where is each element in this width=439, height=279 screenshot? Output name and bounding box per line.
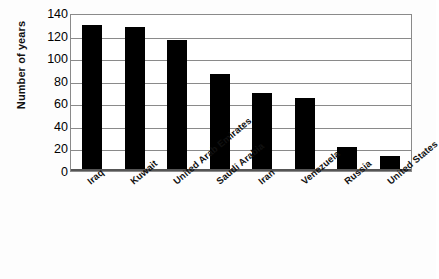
y-axis-tick-label: 80	[30, 75, 68, 89]
y-axis-tick-label: 20	[30, 142, 68, 156]
bar-slot	[369, 15, 412, 171]
x-label-slot: Iran	[241, 174, 284, 274]
x-label-slot: Venezuela	[284, 174, 327, 274]
x-label-slot: United States	[369, 174, 412, 274]
x-label-slot: Saudi Arabia	[198, 174, 241, 274]
plot-area	[70, 14, 412, 172]
y-axis-tick-label: 120	[30, 30, 68, 44]
bars-group	[71, 15, 411, 171]
y-axis-title: Number of years	[12, 0, 30, 130]
x-label-slot: Russia	[327, 174, 370, 274]
bar-slot	[284, 15, 327, 171]
bar[interactable]	[295, 98, 315, 171]
y-axis-tick-label: 100	[30, 52, 68, 66]
bar[interactable]	[82, 25, 102, 171]
bar[interactable]	[125, 27, 145, 171]
y-axis-tick-labels: 020406080100120140	[30, 14, 68, 172]
bar[interactable]	[252, 93, 272, 171]
bar-slot	[114, 15, 157, 171]
x-label-slot: United Arab Emirates	[156, 174, 199, 274]
x-label-slot: Kuwait	[113, 174, 156, 274]
bar[interactable]	[167, 40, 187, 171]
y-axis-tick-label: 140	[30, 7, 68, 21]
y-axis-tick-label: 0	[30, 165, 68, 179]
bar-slot	[156, 15, 199, 171]
y-axis-tick-label: 60	[30, 97, 68, 111]
x-label-slot: Iraq	[70, 174, 113, 274]
bar-slot	[326, 15, 369, 171]
x-axis-tick-labels: IraqKuwaitUnited Arab EmiratesSaudi Arab…	[70, 174, 412, 274]
bar-slot	[71, 15, 114, 171]
y-axis-tick-label: 40	[30, 120, 68, 134]
